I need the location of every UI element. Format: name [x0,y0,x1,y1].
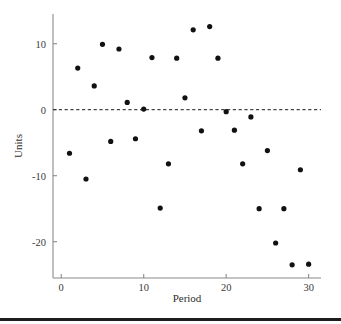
plot-canvas: 0102030 100-10-20 Period Units [0,0,341,324]
x-tick-label: 10 [138,282,149,293]
data-point [174,56,179,61]
data-point [298,167,303,172]
data-point [257,206,262,211]
data-point [83,176,88,181]
data-point [290,262,295,267]
data-point [158,205,163,210]
data-point [207,24,212,29]
data-point [306,262,311,267]
scatter-plot-figure: 0102030 100-10-20 Period Units [0,0,341,324]
data-point [149,55,154,60]
y-tick-label: -10 [32,171,46,182]
footer-rule [0,318,341,321]
plot-axes [53,14,321,278]
y-tick-label: -20 [32,237,46,248]
y-tick-label: 10 [36,39,47,50]
y-axis-title: Units [12,134,24,158]
data-point [248,114,253,119]
data-point [125,100,130,105]
x-tick-label: 0 [59,282,64,293]
data-point [240,161,245,166]
data-point [67,151,72,156]
data-point [166,161,171,166]
data-point [265,148,270,153]
data-point [116,46,121,51]
data-point [141,106,146,111]
data-point [182,95,187,100]
data-point [273,240,278,245]
data-point [215,56,220,61]
data-point [199,128,204,133]
x-tick-label: 20 [221,282,232,293]
data-point [75,66,80,71]
data-point-layer [67,24,311,267]
data-point [224,109,229,114]
x-axis-title: Period [173,292,202,304]
data-point [108,139,113,144]
data-point [191,27,196,32]
y-tick-label: 0 [41,105,46,116]
x-axis-ticks: 0102030 [59,274,314,293]
x-tick-label: 30 [303,282,314,293]
data-point [133,136,138,141]
data-point [100,42,105,47]
data-point [92,83,97,88]
data-point [232,128,237,133]
data-point [281,206,286,211]
